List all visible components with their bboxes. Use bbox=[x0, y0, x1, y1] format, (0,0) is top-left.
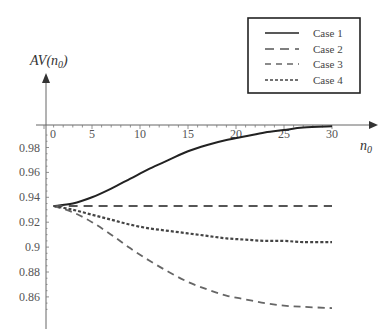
y-tick-label: 0.94 bbox=[19, 190, 40, 204]
legend-label: Case 4 bbox=[313, 74, 343, 86]
y-axis-arrow-icon bbox=[42, 73, 50, 83]
legend-label: Case 1 bbox=[313, 27, 343, 39]
series-lines bbox=[54, 126, 332, 308]
legend-label: Case 2 bbox=[313, 43, 343, 55]
y-axis-title: AV(n0) bbox=[29, 53, 68, 70]
y-ticks: 0.980.960.940.920.90.880.86 bbox=[19, 135, 49, 309]
x-axis-arrow-icon bbox=[369, 121, 378, 129]
x-ticks: 051015202530 bbox=[44, 125, 338, 141]
y-axis: 0.980.960.940.920.90.880.86 AV(n0) bbox=[19, 53, 68, 329]
x-tick-label: 5 bbox=[89, 127, 95, 141]
x-tick-label: 0 bbox=[50, 127, 56, 141]
x-tick-label: 10 bbox=[134, 127, 146, 141]
series-case-4 bbox=[54, 206, 332, 242]
x-axis-title: n0 bbox=[360, 138, 372, 155]
y-tick-label: 0.92 bbox=[19, 215, 40, 229]
x-tick-label: 15 bbox=[182, 127, 194, 141]
series-case-3 bbox=[54, 206, 332, 308]
legend: Case 1Case 2Case 3Case 4 bbox=[248, 18, 360, 93]
y-tick-label: 0.88 bbox=[19, 265, 40, 279]
legend-label: Case 3 bbox=[313, 58, 343, 70]
x-tick-label: 30 bbox=[326, 127, 338, 141]
y-tick-label: 0.9 bbox=[25, 240, 40, 254]
line-chart: 051015202530 n0 0.980.960.940.920.90.880… bbox=[0, 0, 392, 329]
y-tick-label: 0.96 bbox=[19, 165, 40, 179]
y-tick-label: 0.86 bbox=[19, 290, 40, 304]
y-tick-label: 0.98 bbox=[19, 141, 40, 155]
